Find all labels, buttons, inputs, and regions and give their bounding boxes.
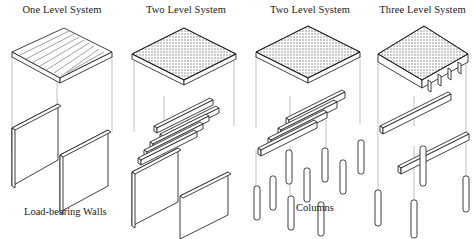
caption-load-bearing-walls: Load-bearing Walls <box>24 206 107 217</box>
girder <box>398 132 469 174</box>
panel-three-level-system: Three Level System <box>372 0 473 239</box>
floor-slab <box>132 28 236 85</box>
ribbed-slab <box>12 28 112 83</box>
caption-columns: Columns <box>296 202 334 213</box>
panel-two-level-walls-graphic <box>124 0 248 239</box>
load-bearing-wall-front <box>180 172 231 239</box>
column <box>420 146 426 186</box>
load-bearing-wall-back <box>12 104 61 188</box>
column <box>322 148 328 182</box>
column <box>358 140 364 174</box>
floor-slab <box>256 26 360 83</box>
diagram-canvas: One Level System <box>0 0 473 239</box>
column <box>254 186 260 220</box>
beam-group <box>258 90 345 156</box>
column-group <box>254 140 364 236</box>
panel-one-level-system: One Level System <box>0 0 124 239</box>
panel-one-level-graphic <box>0 0 124 239</box>
column <box>411 200 417 238</box>
column <box>270 176 276 210</box>
column <box>288 196 294 230</box>
load-bearing-wall-front <box>60 130 111 214</box>
joist-group <box>138 98 219 165</box>
column <box>304 168 310 202</box>
column <box>463 176 469 212</box>
column <box>340 160 346 194</box>
panel-three-level-graphic <box>372 0 473 239</box>
girder <box>380 92 451 134</box>
column <box>375 190 381 226</box>
column-group <box>375 146 469 238</box>
panel-two-level-system-columns: Two Level System <box>248 0 372 239</box>
column <box>286 150 292 184</box>
slab-with-joists <box>378 26 468 92</box>
panel-two-level-system-walls: Two Level System <box>124 0 248 239</box>
